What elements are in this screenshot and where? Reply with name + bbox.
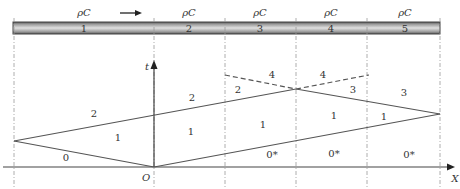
- direction-arrow-icon: [120, 10, 142, 16]
- characteristic-lines: [14, 89, 440, 167]
- x-axis-label: X: [450, 173, 459, 184]
- dashed-wave-lines: [225, 75, 369, 89]
- segment-1-material: ρC: [76, 7, 91, 18]
- segment-3-number: 3: [257, 23, 263, 34]
- segment-3-material: ρC: [252, 7, 267, 18]
- wave-diagram: ρC ρC ρC ρC ρC 1 2 3 4 5 t X O: [0, 0, 460, 189]
- rod: [13, 22, 440, 34]
- segment-2-material: ρC: [181, 7, 196, 18]
- region-label: 3: [401, 87, 407, 98]
- region-label: 0*: [403, 149, 414, 160]
- origin-label: O: [142, 172, 150, 183]
- segment-5-number: 5: [402, 23, 408, 34]
- segment-4-material: ρC: [323, 7, 338, 18]
- t-axis-label: t: [145, 61, 150, 72]
- region-label: 1: [381, 111, 387, 122]
- region-label: 1: [260, 119, 266, 130]
- region-label: 1: [115, 132, 121, 143]
- region-label: 0*: [266, 149, 277, 160]
- region-label: 4: [320, 69, 326, 80]
- segment-2-number: 2: [186, 23, 192, 34]
- t-axis-arrow-icon: [151, 60, 158, 69]
- region-label: 0: [63, 152, 69, 163]
- region-label: 1: [331, 110, 337, 121]
- region-label: 1: [188, 126, 194, 137]
- axes: t X O: [3, 60, 459, 184]
- region-label: 2: [235, 84, 241, 95]
- segment-5-material: ρC: [397, 7, 412, 18]
- segment-1-number: 1: [81, 23, 87, 34]
- region-label: 2: [189, 92, 195, 103]
- region-label: 3: [350, 84, 356, 95]
- segment-4-number: 4: [328, 23, 334, 34]
- region-labels: 0 1 2 1 2 2 1 4 0* 4 3 1 0* 3 1 0*: [63, 69, 415, 163]
- region-label: 2: [91, 108, 97, 119]
- region-label: 4: [269, 69, 275, 80]
- region-label: 0*: [328, 148, 339, 159]
- x-axis-arrow-icon: [447, 164, 455, 171]
